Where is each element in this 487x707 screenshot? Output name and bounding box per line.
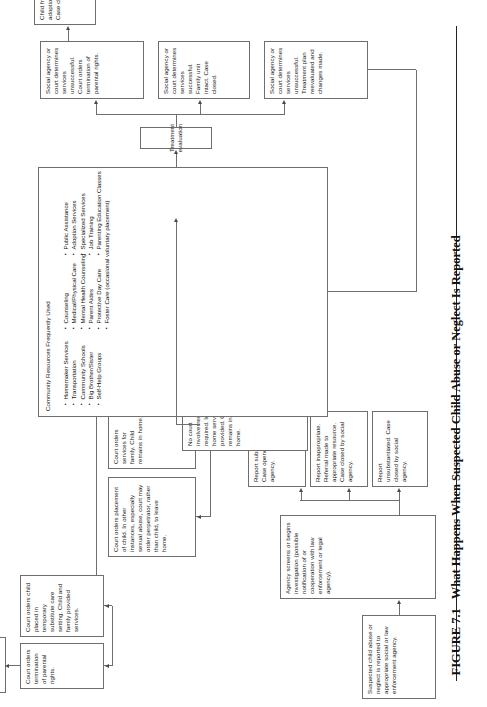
resource-item: Job Training (87, 171, 95, 255)
resource-item: Public Assistance (62, 171, 70, 255)
resource-item: Self-Help Groups (95, 341, 103, 405)
arrow-eval-to-unsuccessful-termination (94, 100, 98, 104)
node-report-unsubstantiated: Report unsubstantiated. Case closed by s… (372, 411, 428, 487)
arrow-to-inappropriate (347, 488, 351, 492)
connector-screen-to-unsubstantiated (399, 491, 400, 501)
node-services-unsuccessful-reevaluated: Social agency or court determines servic… (264, 41, 368, 99)
figure-caption: FIGURE 7.1What Happens When Suspected Ch… (449, 0, 464, 676)
arrow-eval-to-successful (198, 100, 202, 104)
connector-report-to-screen (399, 603, 400, 615)
connector-resources-to-evaluation (176, 153, 177, 167)
node-report-text: Suspected child abuse or neglect is repo… (366, 620, 398, 694)
arrow-report-to-screen (397, 600, 401, 604)
node-report-inappropriate: Report inappropriate. Referral made to a… (310, 411, 368, 487)
flowchart-canvas: Suspected child abuse or neglect is repo… (0, 0, 487, 707)
rotated-diagram-wrapper: Suspected child abuse or neglect is repo… (0, 0, 487, 707)
connector-nocourt-elbow-v (176, 424, 200, 425)
arrow-termination-to-adoption-top (5, 665, 9, 669)
connector-nocourt-elbow-h (176, 221, 177, 425)
connector-eval-to-reevaluated (284, 103, 285, 115)
figure-caption-region: FIGURE 7.1What Happens When Suspected Ch… (449, 0, 483, 707)
connector-screen-to-substantiated (301, 491, 302, 501)
arrow-to-unsubstantiated (397, 488, 401, 492)
community-resources-column-3: Public Assistance Adoption Services Spec… (62, 171, 103, 255)
connector-eval-bus (96, 114, 284, 115)
resource-item: Adoption Services (70, 171, 78, 255)
node-court-orders-placement-text: Court orders placement of child. In othe… (112, 482, 168, 552)
node-court-orders-termination: Court orders termination of parental rig… (20, 643, 104, 689)
node-screening: Agency screens or begins investigation (… (280, 515, 436, 599)
node-child-freed-adoption-right: Child freed for adoption. Case closed. (34, 0, 96, 25)
arrow-into-placement (197, 516, 201, 520)
node-court-orders-placement: Court orders placement of child. In othe… (108, 477, 196, 557)
figure-number: FIGURE 7.1 (449, 608, 463, 675)
resource-item: Community Schools (79, 341, 87, 405)
node-report-inappropriate-text: Report inappropriate. Referral made to a… (314, 416, 354, 482)
node-services-successful: Social agency or court determines servic… (158, 41, 250, 99)
connector-termination-to-adoption-top (8, 665, 20, 666)
arrow-to-substantiated (299, 488, 303, 492)
connector-feedback-v2 (328, 291, 416, 292)
resource-item: Specialized Services (79, 171, 87, 255)
node-services-unsuccessful-termination-text: Social agency or court determines servic… (44, 46, 100, 94)
community-resources-title: Community Resources Frequently Used (44, 171, 51, 411)
node-substitute-care-text: Court orders child placed in temporary s… (24, 580, 80, 632)
resource-item: Homemaker Services (62, 341, 70, 405)
connector-screen-to-inappropriate (349, 491, 350, 501)
connector-placement-up-h (112, 606, 113, 666)
arrow-nocourt-to-resources (174, 218, 178, 222)
resource-item: Parenting Education Classes (95, 171, 103, 255)
resource-item: Big Brother/Sister (87, 341, 95, 405)
figure-title: What Happens When Suspected Child Abuse … (449, 235, 463, 599)
arrow-termination-to-adoption-right (66, 26, 70, 30)
connector-termination-to-adoption-right (68, 29, 69, 41)
connector-screen-stub (399, 501, 400, 515)
connector-screen-bus (300, 500, 400, 501)
connector-eval-out (176, 115, 177, 127)
node-report-unsubstantiated-text: Report unsubstantiated. Case closed by s… (376, 416, 408, 482)
node-report: Suspected child abuse or neglect is repo… (362, 615, 436, 699)
node-substitute-care: Court orders child placed in temporary s… (20, 575, 104, 637)
node-court-orders-termination-text: Court orders termination of parental rig… (24, 648, 56, 684)
arrow-eval-to-reevaluated (282, 100, 286, 104)
connector-feedback-v1 (368, 69, 416, 70)
arrow-into-substitute-care (105, 605, 109, 609)
node-child-freed-adoption-right-text: Child freed for adoption. Case closed. (38, 0, 62, 20)
connector-feedback-h (416, 70, 417, 292)
arrow-into-termination (105, 665, 109, 669)
resource-item: Transportation (70, 341, 78, 405)
node-treatment-evaluation: Treatment evaluation (140, 127, 212, 149)
node-services-unsuccessful-termination: Social agency or court determines servic… (40, 41, 144, 99)
node-treatment-evaluation-text: Treatment evaluation (168, 124, 184, 152)
community-resources-column-1: Homemaker Services Transportation Commun… (62, 341, 103, 405)
resource-item: Foster Care (occasional voluntary placem… (103, 201, 111, 329)
node-services-unsuccessful-reevaluated-text: Social agency or court determines servic… (268, 46, 324, 94)
figure-page: Suspected child abuse or neglect is repo… (0, 0, 487, 707)
node-services-successful-text: Social agency or court determines servic… (162, 46, 218, 94)
node-screening-text: Agency screens or begins investigation (… (284, 520, 332, 594)
connector-eval-to-successful (200, 103, 201, 115)
node-court-orders-services-family-text: Court orders services for family. Child … (112, 414, 144, 464)
connector-eval-to-unsuccessful-termination (96, 103, 97, 115)
